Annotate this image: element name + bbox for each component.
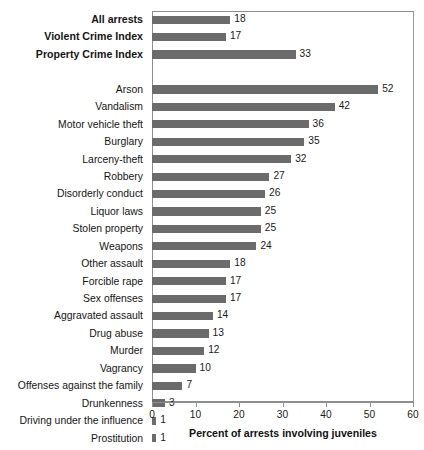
bar-row[interactable]: 52 [152, 81, 414, 98]
bar[interactable] [152, 225, 261, 233]
bar[interactable] [152, 16, 230, 24]
bar[interactable] [152, 33, 226, 41]
bar-value-label: 25 [265, 220, 276, 237]
category-label: Liquor laws [0, 203, 148, 220]
bar[interactable] [152, 50, 296, 58]
bar-value-label: 24 [260, 238, 271, 255]
bar[interactable] [152, 312, 213, 320]
bar[interactable] [152, 295, 226, 303]
bar-row[interactable]: 35 [152, 133, 414, 150]
bar-value-label: 32 [295, 151, 306, 168]
bar-row[interactable]: 13 [152, 325, 414, 342]
x-axis-tick-label: 30 [277, 409, 288, 420]
bar-row[interactable]: 10 [152, 360, 414, 377]
x-axis-tick-label: 50 [364, 409, 375, 420]
category-label: Other assault [0, 255, 148, 272]
bar[interactable] [152, 85, 378, 93]
bar-value-label: 13 [213, 325, 224, 342]
bar-row-spacer [152, 63, 414, 80]
x-axis-tick-label: 20 [233, 409, 244, 420]
bar[interactable] [152, 242, 256, 250]
bar[interactable] [152, 207, 261, 215]
bar-value-label: 17 [230, 290, 241, 307]
bar-row[interactable]: 17 [152, 273, 414, 290]
bar[interactable] [152, 364, 196, 372]
category-label-spacer [0, 63, 148, 80]
category-axis-labels: All arrestsViolent Crime IndexProperty C… [0, 11, 148, 447]
bar-row[interactable]: 25 [152, 220, 414, 237]
x-axis-title: Percent of arrests involving juveniles [152, 427, 414, 439]
bar-value-label: 42 [339, 98, 350, 115]
category-label: Drug abuse [0, 325, 148, 342]
bar[interactable] [152, 173, 269, 181]
category-label: All arrests [0, 11, 148, 28]
category-label: Murder [0, 342, 148, 359]
bar-row[interactable]: 36 [152, 116, 414, 133]
category-label: Offenses against the family [0, 377, 148, 394]
bar-row[interactable]: 17 [152, 28, 414, 45]
category-label: Vagrancy [0, 360, 148, 377]
bar-row[interactable]: 17 [152, 290, 414, 307]
bar[interactable] [152, 347, 204, 355]
bar[interactable] [152, 260, 230, 268]
category-label: Aggravated assault [0, 307, 148, 324]
category-label: Larceny-theft [0, 151, 148, 168]
x-axis-tick [370, 402, 371, 407]
bar[interactable] [152, 382, 182, 390]
bar-value-label: 33 [300, 46, 311, 63]
bar-value-label: 18 [234, 11, 245, 28]
x-axis-tick [326, 402, 327, 407]
bar-row[interactable]: 7 [152, 377, 414, 394]
bar[interactable] [152, 103, 335, 111]
bar[interactable] [152, 277, 226, 285]
category-label: Violent Crime Index [0, 28, 148, 45]
category-label: Vandalism [0, 98, 148, 115]
bar[interactable] [152, 329, 209, 337]
category-label: Burglary [0, 133, 148, 150]
bar-row[interactable]: 42 [152, 98, 414, 115]
bar-value-label: 27 [273, 168, 284, 185]
bar-value-label: 25 [265, 203, 276, 220]
bar-value-label: 35 [308, 133, 319, 150]
bar-row[interactable]: 12 [152, 342, 414, 359]
bar-value-label: 26 [269, 185, 280, 202]
bar[interactable] [152, 190, 265, 198]
bar-row[interactable]: 18 [152, 255, 414, 272]
x-axis-tick [196, 402, 197, 407]
bar-row[interactable]: 18 [152, 11, 414, 28]
bar-value-label: 36 [313, 116, 324, 133]
bar-row[interactable]: 25 [152, 203, 414, 220]
bar[interactable] [152, 399, 165, 407]
bar-value-label: 17 [230, 273, 241, 290]
x-axis-tick-label: 10 [190, 409, 201, 420]
category-label: Robbery [0, 168, 148, 185]
x-axis-tick-label: 60 [407, 409, 418, 420]
bar-row[interactable]: 27 [152, 168, 414, 185]
bar-chart: All arrestsViolent Crime IndexProperty C… [0, 0, 424, 450]
bar-row[interactable]: 32 [152, 151, 414, 168]
bar-row[interactable]: 24 [152, 238, 414, 255]
x-axis-tick [413, 402, 414, 407]
bar-row[interactable]: 26 [152, 185, 414, 202]
category-label: Motor vehicle theft [0, 116, 148, 133]
category-label: Prostitution [0, 430, 148, 447]
bar[interactable] [152, 120, 309, 128]
x-axis-tick [239, 402, 240, 407]
category-label: Driving under the influence [0, 412, 148, 429]
bar[interactable] [152, 155, 291, 163]
x-axis-tick-label: 40 [320, 409, 331, 420]
bar-value-label: 3 [169, 395, 175, 412]
bar[interactable] [152, 138, 304, 146]
category-label: Sex offenses [0, 290, 148, 307]
x-axis-tick-label: 0 [149, 409, 155, 420]
category-label: Weapons [0, 238, 148, 255]
bar-value-label: 17 [230, 28, 241, 45]
bar-value-label: 52 [382, 81, 393, 98]
bar-row[interactable]: 33 [152, 46, 414, 63]
category-label: Disorderly conduct [0, 185, 148, 202]
category-label: Arson [0, 81, 148, 98]
bar-value-label: 18 [234, 255, 245, 272]
bar-value-label: 12 [208, 342, 219, 359]
bar-row[interactable]: 14 [152, 307, 414, 324]
x-axis-tick [152, 402, 153, 407]
